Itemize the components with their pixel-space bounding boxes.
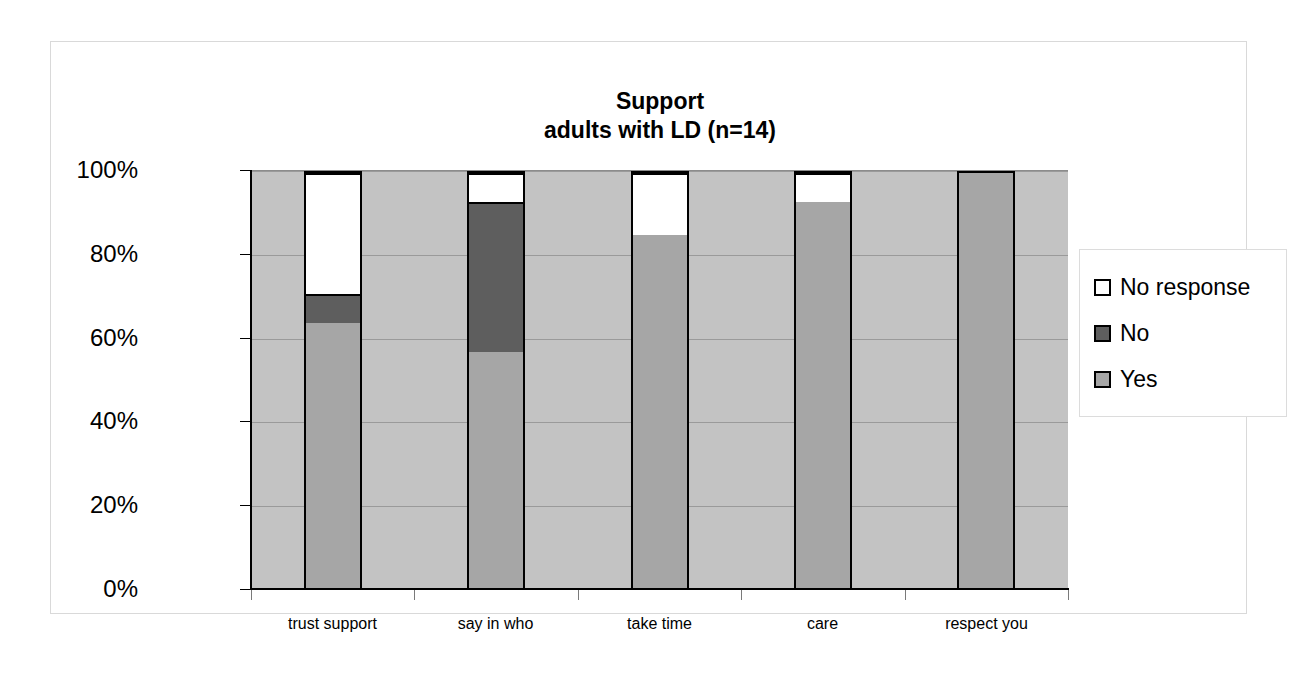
chart-frame: Support adults with LD (n=14) 0%20%40%60… (50, 41, 1247, 614)
x-axis-tick (905, 590, 906, 600)
legend-item[interactable]: No response (1094, 264, 1286, 310)
x-axis-tick (578, 590, 579, 600)
chart-title-line-1: Support (251, 87, 1069, 116)
stacked-bar[interactable] (794, 171, 852, 589)
legend-label: No (1120, 322, 1149, 345)
bar-segment-no-response[interactable] (306, 173, 360, 294)
x-axis-tick (1068, 590, 1069, 600)
x-axis-label: respect you (905, 614, 1068, 634)
y-axis-label: 20% (18, 493, 138, 517)
stacked-bar[interactable] (467, 171, 525, 589)
bar-segment-yes[interactable] (469, 352, 523, 589)
x-axis-tick (251, 590, 252, 600)
bar-segment-yes[interactable] (959, 173, 1013, 589)
y-axis-label: 40% (18, 409, 138, 433)
legend-item[interactable]: No (1094, 310, 1286, 356)
stacked-bar[interactable] (304, 171, 362, 589)
x-axis-label: say in who (414, 614, 577, 634)
y-axis-tick (240, 505, 251, 506)
bar-slot (741, 171, 904, 589)
y-axis-label: 100% (18, 158, 138, 182)
y-axis-tick (240, 170, 251, 171)
x-axis-line (250, 588, 1069, 590)
chart-legend: No responseNoYes (1079, 249, 1287, 417)
y-axis-label: 80% (18, 242, 138, 266)
bar-slot (414, 171, 577, 589)
chart-title: Support adults with LD (n=14) (251, 87, 1069, 145)
legend-swatch-icon (1094, 279, 1111, 296)
legend-swatch-icon (1094, 371, 1111, 388)
bar-slot (905, 171, 1068, 589)
x-axis-tick (741, 590, 742, 600)
bar-slot (578, 171, 741, 589)
chart-title-line-2: adults with LD (n=14) (251, 116, 1069, 145)
x-axis-label: care (741, 614, 904, 634)
bar-segment-no[interactable] (469, 202, 523, 352)
x-axis-tick (414, 590, 415, 600)
bar-segment-no[interactable] (306, 294, 360, 323)
y-axis-label: 0% (18, 577, 138, 601)
y-axis-label: 60% (18, 326, 138, 350)
stacked-bar[interactable] (957, 171, 1015, 589)
bar-slot (251, 171, 414, 589)
bar-segment-yes[interactable] (796, 202, 850, 589)
bar-group (251, 171, 1068, 589)
y-axis-line (250, 170, 252, 590)
legend-swatch-icon (1094, 325, 1111, 342)
y-axis-tick (240, 421, 251, 422)
legend-item[interactable]: Yes (1094, 356, 1286, 402)
legend-label: No response (1120, 276, 1250, 299)
stacked-bar[interactable] (631, 171, 689, 589)
legend-label: Yes (1120, 368, 1158, 391)
bar-segment-yes[interactable] (633, 235, 687, 589)
bar-segment-no-response[interactable] (469, 173, 523, 202)
y-axis-tick (240, 338, 251, 339)
y-axis-tick (240, 589, 251, 590)
x-axis-label: trust support (251, 614, 414, 634)
x-axis-label: take time (578, 614, 741, 634)
plot-area (251, 170, 1068, 589)
bar-segment-yes[interactable] (306, 323, 360, 589)
bar-segment-no-response[interactable] (633, 173, 687, 235)
bar-segment-no-response[interactable] (796, 173, 850, 202)
y-axis-tick (240, 254, 251, 255)
